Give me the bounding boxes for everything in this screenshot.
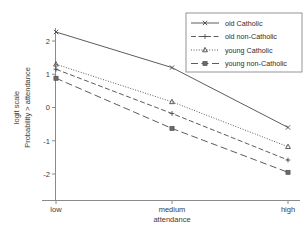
line-chart: -2-1012lowmediumhighattendanceProbabilit… — [0, 0, 308, 243]
series-marker — [286, 170, 290, 174]
series-marker — [170, 99, 175, 103]
y-tick-label: 0 — [46, 103, 50, 112]
legend-marker — [203, 61, 207, 65]
x-axis-title: attendance — [153, 215, 190, 224]
series-marker — [54, 76, 58, 80]
series-marker — [170, 126, 174, 130]
x-tick-label: high — [281, 205, 295, 214]
x-tick-label: low — [50, 205, 62, 214]
y-tick-label: -1 — [43, 137, 50, 146]
y-axis-title-outer: logit scale — [12, 91, 21, 124]
series-line-young-catholic — [56, 64, 288, 146]
y-tick-label: -2 — [43, 170, 50, 179]
legend-label: old non-Catholic — [225, 32, 277, 41]
y-tick-label: 1 — [46, 70, 50, 79]
y-axis-title: Probability > attendance — [23, 67, 32, 148]
chart-container: -2-1012lowmediumhighattendanceProbabilit… — [0, 0, 308, 243]
y-tick-label: 2 — [46, 37, 50, 46]
x-tick-label: medium — [159, 205, 186, 214]
legend-label: young non-Catholic — [225, 59, 287, 68]
legend-label: old Catholic — [225, 19, 263, 28]
legend-label: young Catholic — [225, 46, 273, 55]
series-line-young-non-catholic — [56, 78, 288, 172]
series-marker — [286, 144, 291, 148]
